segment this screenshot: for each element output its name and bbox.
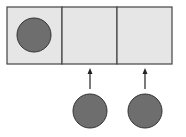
ball-below-cell-2	[73, 94, 107, 128]
diagram-canvas	[0, 0, 186, 137]
arrow-head-icon	[88, 68, 93, 74]
arrow-to-cell-3	[143, 68, 148, 89]
cell-3	[117, 7, 172, 64]
ball-below-cell-3	[128, 94, 162, 128]
ball-in-cell-1	[17, 18, 51, 52]
cell-2	[62, 7, 117, 64]
arrow-to-cell-2	[88, 68, 93, 89]
arrow-head-icon	[143, 68, 148, 74]
